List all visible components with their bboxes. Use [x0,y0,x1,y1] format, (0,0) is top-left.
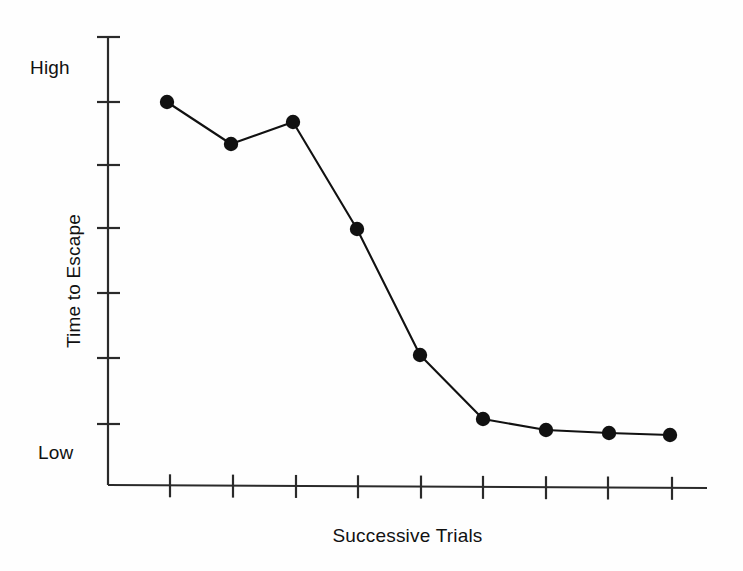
data-point-5 [413,348,427,362]
data-point-1 [160,95,174,109]
data-series-line [167,102,670,435]
y-axis-title: Time to Escape [63,181,85,381]
axis-group [108,37,707,488]
x-axis-line [108,485,707,488]
data-point-4 [350,222,364,236]
data-point-8 [602,426,616,440]
chart-figure: High Low Time to Escape Successive Trial… [0,0,743,571]
data-point-6 [476,412,490,426]
tick-mark-group [97,37,672,500]
data-point-3 [286,115,300,129]
y-axis-high-label: High [30,57,70,79]
data-point-9 [663,428,677,442]
data-point-7 [539,423,553,437]
y-axis-low-label: Low [38,442,73,464]
x-axis-title: Successive Trials [108,525,707,547]
data-point-2 [224,137,238,151]
data-point-marker-group [160,95,677,442]
chart-canvas [0,0,743,571]
